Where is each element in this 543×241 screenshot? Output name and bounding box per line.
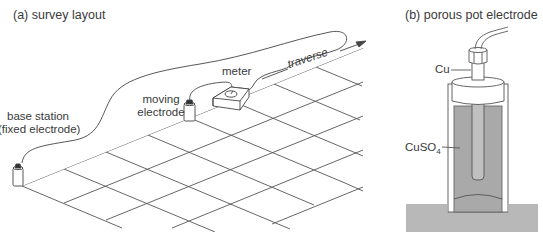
moving-line2: electrode [136,106,186,119]
meter-box [213,87,249,110]
base-station-label: base station (fixed electrode) [0,110,78,136]
cuso4-label: CuSO4 [405,141,441,158]
survey-grid [22,48,363,232]
base-station-line1: base station [0,110,78,123]
meter-label: meter [222,65,251,78]
cu-label: Cu [435,63,450,76]
fixed-electrode [13,164,23,186]
diagram-canvas [0,0,543,241]
moving-line1: moving [136,93,186,106]
copper-rod [472,98,484,180]
panel-b-title: (b) porous pot electrode [405,9,538,22]
cuso4-main: CuSO [405,141,436,153]
porous-pot [406,27,538,232]
panel-a-title: (a) survey layout [13,9,105,22]
cuso4-subscript: 4 [436,147,440,156]
moving-electrode-label: moving electrode [136,93,186,119]
base-station-line2: (fixed electrode) [0,123,78,136]
